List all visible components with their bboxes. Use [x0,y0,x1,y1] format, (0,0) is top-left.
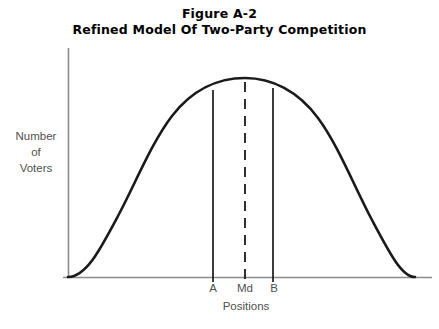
y-axis-label-line-1: Number [10,128,62,144]
y-axis-label-line-3: Voters [10,160,62,176]
y-axis-label: Number of Voters [10,128,62,176]
plot-area [0,0,439,329]
x-tick-label-b: B [259,282,289,294]
x-axis-label: Positions [196,300,296,312]
x-tick-label-a: A [198,282,228,294]
voter-distribution-curve [68,78,415,277]
figure-container: Figure A-2 Refined Model Of Two-Party Co… [0,0,439,329]
y-axis-label-line-2: of [10,144,62,160]
x-tick-label-md: Md [230,282,260,294]
